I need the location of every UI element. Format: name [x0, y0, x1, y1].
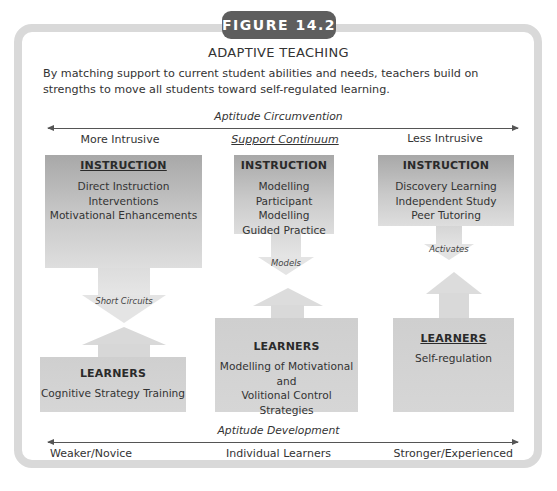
- instruction-heading-2: INSTRUCTION: [234, 159, 334, 172]
- bottom-axis-double-arrow: [48, 442, 518, 443]
- down-arrow-shaft-1: [98, 266, 150, 296]
- instruction-item: Peer Tutoring: [378, 208, 514, 223]
- learners-item: Modelling of Motivational and: [215, 359, 358, 388]
- instruction-item: Guided Practice: [234, 223, 334, 238]
- instruction-item: Modelling: [234, 179, 334, 194]
- instruction-item: Motivational Enhancements: [45, 208, 202, 223]
- instruction-box-3: INSTRUCTION Discovery Learning Independe…: [378, 155, 514, 226]
- learners-box-1: LEARNERS Cognitive Strategy Training: [40, 357, 186, 412]
- up-arrow-head-1: [82, 327, 166, 345]
- learners-heading-2: LEARNERS: [215, 340, 358, 353]
- instruction-heading-3: INSTRUCTION: [378, 159, 514, 172]
- instruction-items-1: Direct Instruction Interventions Motivat…: [45, 179, 202, 223]
- top-axis-double-arrow: [48, 128, 518, 129]
- instruction-item: Direct Instruction: [45, 179, 202, 194]
- learners-items-3: Self-regulation: [393, 351, 514, 366]
- down-arrow-shaft-3: [436, 224, 462, 246]
- top-axis-left-label: More Intrusive: [45, 133, 195, 146]
- instruction-item: Participant Modelling: [234, 194, 334, 223]
- learners-item: Volitional Control Strategies: [215, 388, 358, 417]
- up-arrow-shaft-1: [98, 344, 150, 358]
- learners-heading-1: LEARNERS: [40, 367, 186, 380]
- bottom-axis-right-label: Stronger/Experienced: [393, 447, 513, 460]
- instruction-item: Interventions: [45, 194, 202, 209]
- figure-title: ADAPTIVE TEACHING: [0, 45, 557, 60]
- learners-heading-3: LEARNERS: [393, 332, 514, 345]
- learners-item: Cognitive Strategy Training: [40, 386, 186, 401]
- connector-label-2: Models: [256, 258, 316, 268]
- instruction-items-2: Modelling Participant Modelling Guided P…: [234, 179, 334, 237]
- top-axis-center-label: Support Continuum: [210, 133, 360, 146]
- top-axis-label: Aptitude Circumvention: [0, 110, 557, 123]
- learners-item: Self-regulation: [393, 351, 514, 366]
- learners-box-3: LEARNERS Self-regulation: [393, 318, 514, 412]
- top-axis-right-label: Less Intrusive: [370, 132, 520, 145]
- learners-box-2: LEARNERS Modelling of Motivational and V…: [215, 318, 358, 412]
- connector-label-1: Short Circuits: [84, 296, 164, 306]
- up-arrow-head-2: [253, 288, 323, 306]
- bottom-axis-label: Aptitude Development: [0, 424, 557, 437]
- figure-badge: FIGURE 14.2: [222, 11, 336, 39]
- figure-intro: By matching support to current student a…: [43, 66, 523, 98]
- instruction-items-3: Discovery Learning Independent Study Pee…: [378, 179, 514, 223]
- instruction-box-1: INSTRUCTION Direct Instruction Intervent…: [45, 155, 202, 268]
- up-arrow-head-3: [426, 272, 482, 294]
- instruction-heading-1: INSTRUCTION: [45, 159, 202, 172]
- connector-label-3: Activates: [419, 244, 479, 254]
- instruction-item: Independent Study: [378, 194, 514, 209]
- learners-items-2: Modelling of Motivational and Volitional…: [215, 359, 358, 417]
- up-arrow-shaft-3: [439, 293, 469, 319]
- learners-items-1: Cognitive Strategy Training: [40, 386, 186, 401]
- instruction-box-2: INSTRUCTION Modelling Participant Modell…: [234, 155, 334, 234]
- up-arrow-shaft-2: [271, 305, 304, 319]
- instruction-item: Discovery Learning: [378, 179, 514, 194]
